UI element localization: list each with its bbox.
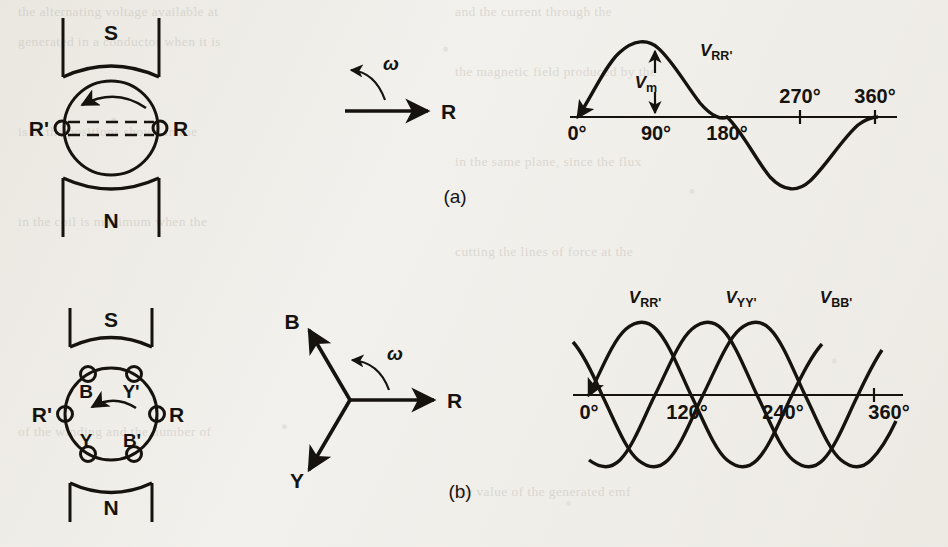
pole-label-north: N (103, 209, 118, 232)
phasor-diagram-three-phase: R B Y ω (284, 310, 462, 492)
xtick-label-180: 180° (706, 122, 747, 144)
omega-arc-arrow-icon-b (352, 360, 389, 390)
machine-diagram-three-phase: S N B Y' Y B' R' R (32, 308, 184, 522)
coil-label-b: B (79, 381, 93, 402)
terminal-label-r-prime-b: R' (32, 403, 52, 426)
waveform-three-phase: VRR' VYY' VBB' 0° 120° 240° 360° (573, 288, 910, 467)
xtick-label-0: 0° (567, 122, 586, 144)
machine-diagram-single-phase: S N R' R (29, 18, 188, 237)
phasor-label-r: R (441, 100, 456, 123)
series-label-bb-prime-b: VBB' (820, 288, 852, 310)
xtick-label-360: 360° (854, 85, 895, 107)
waveform-single-phase: Vm VRR' 0° 90° 180° 270° 360° (567, 41, 897, 189)
terminal-r-prime (55, 121, 69, 135)
terminal-label-r-b: R (169, 403, 184, 426)
xtick-label-0-b: 0° (579, 401, 598, 423)
omega-arc-arrow-icon (351, 70, 385, 100)
xtick-label-90: 90° (641, 122, 671, 144)
series-label-rr-prime: VRR' (700, 41, 732, 63)
panel-caption-b: (b) (448, 481, 471, 502)
series-label-yy-prime-b: VYY' (726, 288, 757, 310)
omega-label-b: ω (387, 343, 403, 364)
vm-label: Vm (635, 73, 657, 95)
coil-label-y-prime: Y' (122, 381, 139, 402)
terminal-label-r: R (173, 117, 188, 140)
pole-label-south: S (104, 21, 118, 44)
rotor-circle (64, 81, 158, 175)
terminal-label-r-prime: R' (29, 117, 49, 140)
coil-label-y: Y (80, 430, 93, 451)
phasor-diagram-single-phase: R ω (345, 53, 456, 123)
phasor-label-y-b: Y (290, 469, 304, 492)
omega-label: ω (383, 53, 399, 74)
sine-curve-rr-prime (578, 42, 878, 189)
xtick-label-270: 270° (779, 85, 820, 107)
xtick-label-360-b: 360° (868, 401, 909, 423)
pole-label-north-b: N (103, 496, 118, 519)
xtick-label-240-b: 240° (762, 401, 803, 423)
panel-caption-a: (a) (443, 186, 466, 207)
xtick-label-120-b: 120° (666, 401, 707, 423)
series-label-rr-prime-b: VRR' (629, 288, 661, 310)
phasor-label-r-b: R (447, 389, 462, 412)
rotation-arrow-icon (82, 97, 146, 108)
terminal-r (153, 121, 167, 135)
coil-label-b-prime: B' (123, 430, 141, 451)
phasor-label-b-b: B (284, 310, 299, 333)
phasor-arrow-y-b (309, 400, 350, 470)
pole-label-south-b: S (104, 308, 118, 331)
figure-root: S N R' R R ω (0, 0, 948, 547)
phasor-arrow-b-b (309, 330, 350, 400)
